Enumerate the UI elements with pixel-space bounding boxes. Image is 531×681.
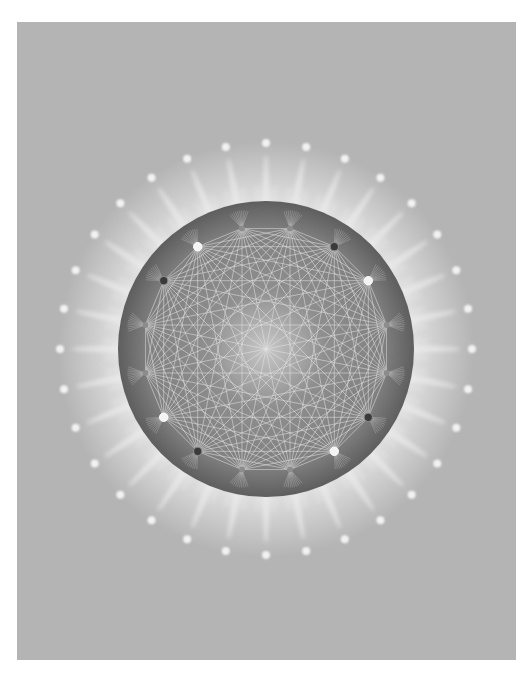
- outer-dot: [91, 231, 99, 239]
- graph-node-grey: [287, 467, 293, 473]
- graph-node-grey: [142, 322, 148, 328]
- outer-dot: [148, 516, 156, 524]
- graph-node-grey: [384, 370, 390, 376]
- graph-node-dark: [330, 243, 338, 251]
- outer-dot: [433, 459, 441, 467]
- outer-dot: [262, 139, 270, 147]
- outer-dot: [72, 266, 80, 274]
- outer-dot: [452, 266, 460, 274]
- outer-dot: [464, 305, 472, 313]
- outer-dot: [302, 143, 310, 151]
- outer-dot: [302, 547, 310, 555]
- outer-dot: [262, 551, 270, 559]
- graph-node-white: [364, 277, 372, 285]
- graph-node-grey: [287, 225, 293, 231]
- outer-dot: [468, 345, 476, 353]
- graph-node-grey: [239, 225, 245, 231]
- outer-dot: [116, 491, 124, 499]
- outer-dot: [91, 459, 99, 467]
- outer-dot: [148, 174, 156, 182]
- page: [0, 0, 531, 681]
- graph-node-white: [194, 243, 202, 251]
- outer-dot: [60, 385, 68, 393]
- graph-node-dark: [160, 277, 168, 285]
- outer-dot: [60, 305, 68, 313]
- graph-node-white: [330, 447, 338, 455]
- outer-dot: [222, 143, 230, 151]
- outer-dot: [222, 547, 230, 555]
- graph-node-grey: [384, 322, 390, 328]
- graph-node-dark: [364, 413, 372, 421]
- outer-dot: [408, 491, 416, 499]
- outer-dot: [452, 424, 460, 432]
- outer-dot: [72, 424, 80, 432]
- graph-node-grey: [239, 467, 245, 473]
- outer-dot: [433, 231, 441, 239]
- graph-node-dark: [194, 447, 202, 455]
- outer-dot: [56, 345, 64, 353]
- graph-node-grey: [142, 370, 148, 376]
- outer-dot: [408, 199, 416, 207]
- outer-dot: [376, 174, 384, 182]
- outer-dot: [183, 535, 191, 543]
- outer-dot: [341, 155, 349, 163]
- graph-node-white: [160, 413, 168, 421]
- outer-dot: [116, 199, 124, 207]
- outer-dot: [341, 535, 349, 543]
- outer-dot: [464, 385, 472, 393]
- outer-dot: [376, 516, 384, 524]
- mandala-artwork: [0, 0, 531, 681]
- outer-dot: [183, 155, 191, 163]
